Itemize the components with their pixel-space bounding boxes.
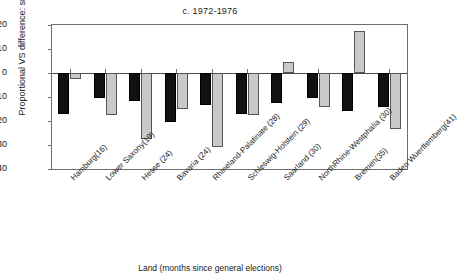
bar-junior bbox=[212, 73, 223, 147]
y-axis-tick-label: 20 bbox=[0, 19, 7, 29]
bar-junior bbox=[283, 62, 294, 73]
y-axis-tick-mark bbox=[48, 169, 52, 170]
y-axis-tick-mark bbox=[48, 121, 52, 122]
bar-senior bbox=[236, 73, 247, 114]
y-axis-tick-mark bbox=[48, 145, 52, 146]
bar-group bbox=[58, 25, 81, 169]
y-axis-tick-label: 0 bbox=[0, 67, 7, 77]
bar-senior bbox=[165, 73, 176, 122]
bar-junior bbox=[248, 73, 259, 115]
bar-junior bbox=[390, 73, 401, 129]
bar-senior bbox=[342, 73, 353, 111]
bar-senior bbox=[307, 73, 318, 98]
x-axis-tick-mark bbox=[70, 69, 71, 73]
bar-junior bbox=[70, 73, 81, 79]
bar-senior bbox=[129, 73, 140, 101]
y-axis-tick-mark bbox=[48, 49, 52, 50]
y-axis-tick-label: −10 bbox=[0, 91, 7, 101]
x-axis-tick-mark bbox=[283, 69, 284, 73]
y-axis-title: Proportional VS difference: sr./jr. bbox=[17, 0, 27, 127]
bar-senior bbox=[94, 73, 105, 98]
x-axis-tick-mark bbox=[105, 69, 106, 73]
bar-senior bbox=[200, 73, 211, 105]
x-axis-tick-mark bbox=[318, 69, 319, 73]
x-axis-tick-mark bbox=[389, 69, 390, 73]
bar-junior bbox=[106, 73, 117, 115]
x-axis-tick-mark bbox=[176, 69, 177, 73]
y-axis-tick-mark bbox=[48, 97, 52, 98]
bar-junior bbox=[354, 31, 365, 73]
bar-junior bbox=[177, 73, 188, 109]
chart-title: c. 1972-1976 bbox=[0, 6, 420, 16]
bar-group bbox=[165, 25, 188, 169]
y-axis-tick-label: 10 bbox=[0, 43, 7, 53]
x-axis-title: Land (months since general elections) bbox=[0, 263, 420, 273]
y-axis-tick-label: −30 bbox=[0, 139, 7, 149]
x-axis-tick-mark bbox=[212, 69, 213, 73]
bar-senior bbox=[271, 73, 282, 103]
bar-junior bbox=[319, 73, 330, 107]
y-axis-tick-label: −20 bbox=[0, 115, 7, 125]
x-axis-tick-mark bbox=[247, 69, 248, 73]
bar-junior bbox=[141, 73, 152, 139]
x-axis-tick-mark bbox=[354, 69, 355, 73]
y-axis-tick-mark bbox=[48, 73, 52, 74]
y-axis-tick-label: −40 bbox=[0, 163, 7, 173]
bar-senior bbox=[378, 73, 389, 107]
x-axis-tick-mark bbox=[141, 69, 142, 73]
bar-senior bbox=[58, 73, 69, 114]
y-axis-tick-mark bbox=[48, 25, 52, 26]
